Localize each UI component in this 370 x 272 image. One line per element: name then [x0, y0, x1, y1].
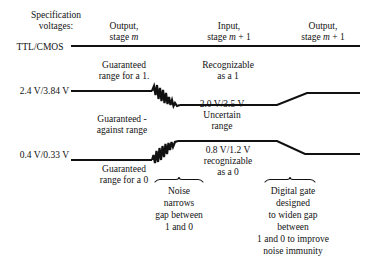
spec-voltages-label-line1: Specification [31, 10, 81, 22]
lower-waveform-noise-burst [152, 141, 178, 163]
column-header-2-line2: stage m + 1 [301, 32, 345, 44]
uncertain-high-voltage-label: 2.0 V/3.5 V [200, 99, 245, 111]
recognizable-one-label-line1: Recognizable [202, 60, 254, 72]
uncertain-low-voltage-label: 0.8 V/1.2 V [206, 145, 251, 157]
column-header-2-stage-var: m [323, 32, 330, 42]
gate-caption-line1: Digital gate [271, 186, 316, 198]
gate-caption-line4: between [277, 222, 309, 234]
column-header-1-line2: stage m + 1 [207, 32, 251, 44]
uncertain-range-label-line1: Uncertain [203, 110, 240, 122]
upper-waveform-noise-burst [152, 85, 180, 106]
gate-caption-line6: noise immunity [263, 246, 322, 258]
column-header-1-line1: Input, [218, 21, 240, 33]
column-header-0-line2: stage m [110, 32, 139, 44]
uncertain-range-label-line2: range [211, 121, 232, 133]
column-header-1-stage-var: m [229, 32, 236, 42]
recognizable-zero-label-line2: as a 0 [217, 167, 239, 179]
noise-caption-line3: gap between [155, 210, 203, 222]
column-header-0-stage-text: stage [110, 32, 132, 42]
gate-caption-line5: 1 and 0 to improve [257, 234, 329, 246]
column-header-0-stage-var: m [132, 32, 139, 42]
guaranteed-zero-label-line2: range for a 0 [100, 175, 148, 187]
column-header-0-line1: Output, [110, 21, 139, 33]
spec-voltages-label-line3: TTL/CMOS [17, 42, 64, 54]
low-spec-voltage-label: 0.4 V/0.33 V [20, 150, 69, 162]
guaranteed-one-label-line1: Guaranteed [102, 60, 146, 72]
noise-caption-line4: 1 and 0 [165, 222, 193, 234]
column-header-1-stage-text: stage [207, 32, 229, 42]
guaranteed-against-label-line2: against range [97, 125, 147, 137]
noise-caption-line2: narrows [164, 198, 195, 210]
high-spec-voltage-label: 2.4 V/3.84 V [20, 86, 69, 98]
gate-caption-line3: to widen gap [268, 210, 317, 222]
gate-caption-line2: designed [276, 198, 310, 210]
column-header-2-stage-text: stage [301, 32, 323, 42]
spec-voltages-label-line2: voltages: [39, 21, 73, 33]
recognizable-one-label-line2: as a 1 [217, 71, 239, 83]
column-header-1-stage-suffix: + 1 [236, 32, 251, 42]
gate-region-brace [265, 177, 315, 182]
noise-margin-diagram: Specification voltages: TTL/CMOS Output,… [0, 0, 370, 272]
guaranteed-against-label-line1: Guaranteed - [97, 114, 146, 126]
recognizable-zero-label-line1: recognizable [204, 156, 253, 168]
noise-region-brace [155, 177, 203, 182]
guaranteed-one-label-line2: range for a 1. [99, 71, 150, 83]
guaranteed-zero-label-line1: Guaranteed [102, 164, 146, 176]
noise-caption-line1: Noise [168, 186, 190, 198]
column-header-2-stage-suffix: + 1 [330, 32, 345, 42]
column-header-2-line1: Output, [309, 21, 338, 33]
